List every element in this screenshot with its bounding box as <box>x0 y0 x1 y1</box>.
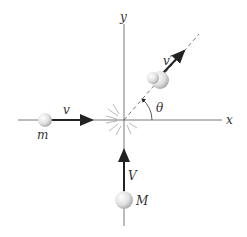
ball-combined <box>147 71 169 89</box>
collision-diagram: θ v m V M v′ y x <box>0 0 247 237</box>
theta-arc <box>142 99 152 120</box>
theta-label: θ <box>156 101 164 115</box>
mass-label-m: m <box>37 128 48 142</box>
x-axis-label: x <box>226 113 233 127</box>
velocity-label-V: V <box>128 169 138 183</box>
velocity-label-v: v <box>63 103 70 117</box>
collision-burst-icon <box>106 104 137 135</box>
mass-label-M: M <box>135 194 149 208</box>
y-axis-label: y <box>119 10 127 24</box>
ball-m <box>38 113 52 127</box>
velocity-label-v-prime: v′ <box>163 54 173 68</box>
ball-M <box>115 191 133 209</box>
